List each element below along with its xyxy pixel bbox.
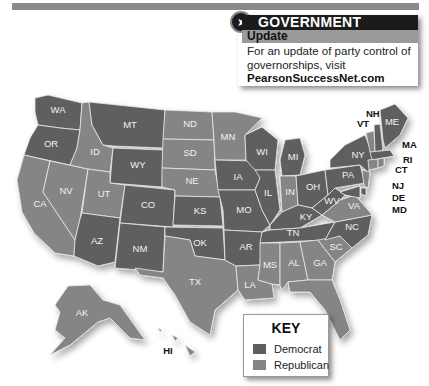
state-label-ak: AK [76, 307, 89, 318]
state-label-me: ME [385, 116, 399, 127]
state-label-ct: CT [395, 164, 408, 175]
state-label-va: VA [348, 200, 361, 211]
state-label-tn: TN [287, 227, 300, 238]
democrat-swatch [253, 344, 266, 354]
state-label-wa: WA [51, 104, 67, 115]
key-title: KEY [244, 320, 328, 336]
state-label-mn: MN [221, 131, 236, 142]
state-label-sc: SC [329, 241, 342, 252]
state-label-mi: MI [288, 151, 299, 162]
state-label-ut: UT [98, 188, 111, 199]
state-label-wv: WV [324, 195, 340, 206]
state-label-il: IL [264, 187, 272, 198]
state-label-ny: NY [351, 149, 365, 160]
state-label-nd: ND [183, 118, 197, 129]
key-item-republican: Republican [253, 359, 329, 371]
state-label-id: ID [90, 146, 100, 157]
government-online-title: GOVERNMENT ONLINE [242, 15, 418, 30]
state-label-sd: SD [183, 147, 196, 158]
state-de[interactable] [361, 188, 366, 196]
key-label-democrat: Democrat [274, 343, 322, 355]
state-label-ia: IA [234, 171, 244, 182]
state-label-pa: PA [342, 169, 355, 180]
state-label-co: CO [141, 199, 155, 210]
state-label-vt: VT [357, 118, 369, 129]
update-text: For an update of party control of govern… [247, 45, 417, 86]
state-label-nm: NM [133, 243, 148, 254]
state-label-wi: WI [256, 146, 268, 157]
state-label-ky: KY [300, 211, 313, 222]
body-line-2: governorships, visit [247, 59, 417, 73]
state-label-ga: GA [313, 257, 327, 268]
state-label-ma: MA [402, 139, 417, 150]
state-label-ok: OK [193, 237, 207, 248]
republican-swatch [253, 360, 266, 370]
government-online-box: ➤ GOVERNMENT ONLINE Update For an update… [238, 15, 418, 86]
state-label-la: LA [244, 279, 256, 290]
key-label-republican: Republican [274, 359, 329, 371]
state-label-md: MD [392, 204, 407, 215]
state-label-ks: KS [194, 205, 207, 216]
state-label-hi: HI [163, 345, 173, 356]
state-label-ne: NE [185, 175, 198, 186]
state-label-ms: MS [263, 259, 277, 270]
state-ri[interactable] [378, 158, 384, 168]
state-label-nh: NH [366, 108, 380, 119]
state-label-mt: MT [123, 119, 137, 130]
pearson-link[interactable]: PearsonSuccessNet.com [247, 72, 417, 86]
state-label-nv: NV [59, 185, 73, 196]
title-bold: GOVERNMENT [258, 14, 361, 30]
state-label-de: DE [392, 192, 405, 203]
state-label-mo: MO [236, 204, 251, 215]
state-label-al: AL [288, 257, 300, 268]
state-label-ar: AR [239, 241, 252, 252]
state-label-oh: OH [306, 181, 320, 192]
state-label-tx: TX [189, 276, 202, 287]
state-label-ca: CA [33, 198, 47, 209]
state-label-nc: NC [345, 221, 359, 232]
state-label-nj: NJ [392, 180, 404, 191]
state-ct[interactable] [368, 159, 378, 170]
state-label-az: AZ [91, 235, 103, 246]
key-item-democrat: Democrat [253, 343, 322, 355]
body-line-1: For an update of party control of [247, 45, 417, 59]
map-key: KEY Democrat Republican [243, 314, 329, 377]
state-nj[interactable] [362, 170, 370, 188]
state-label-or: OR [44, 138, 58, 149]
state-label-in: IN [285, 186, 295, 197]
state-label-wy: WY [130, 159, 146, 170]
update-subtitle: Update [242, 30, 418, 43]
state-ak[interactable] [50, 285, 145, 355]
